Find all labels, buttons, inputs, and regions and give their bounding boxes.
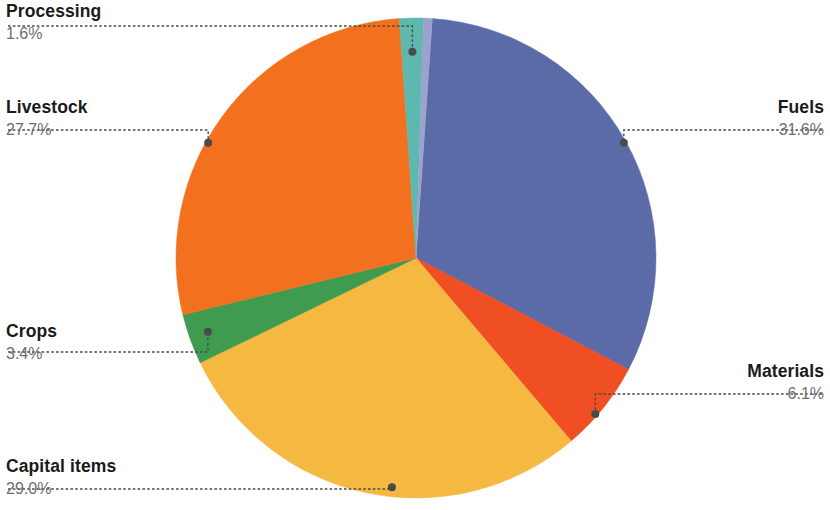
pie-chart-canvas: [0, 0, 830, 510]
pie-slice-group: [176, 18, 656, 498]
callout-processing-label: Processing: [6, 2, 101, 22]
callout-livestock[interactable]: Livestock 27.7%: [6, 98, 88, 139]
callout-capital-items-label: Capital items: [6, 457, 116, 477]
leader-dot-materials: [591, 410, 599, 418]
callout-fuels[interactable]: Fuels 31.6%: [778, 98, 824, 139]
leader-dot-processing: [408, 48, 416, 56]
callout-capital-items[interactable]: Capital items 29.0%: [6, 457, 116, 498]
callout-livestock-value: 27.7%: [6, 118, 88, 139]
leader-dot-fuels: [620, 139, 628, 147]
callout-materials-value: 6.1%: [747, 382, 824, 403]
callout-crops-value: 3.4%: [6, 342, 57, 363]
leader-dot-livestock: [204, 139, 212, 147]
callout-fuels-value: 31.6%: [778, 118, 824, 139]
callout-processing[interactable]: Processing 1.6%: [6, 2, 101, 43]
callout-materials[interactable]: Materials 6.1%: [747, 362, 824, 403]
leader-dot-crops: [204, 328, 212, 336]
leader-dot-capital-items: [388, 483, 396, 491]
callout-processing-value: 1.6%: [6, 22, 101, 43]
callout-livestock-label: Livestock: [6, 98, 88, 118]
callout-fuels-label: Fuels: [778, 98, 824, 118]
callout-materials-label: Materials: [747, 362, 824, 382]
callout-crops-label: Crops: [6, 322, 57, 342]
callout-capital-items-value: 29.0%: [6, 477, 116, 498]
callout-crops[interactable]: Crops 3.4%: [6, 322, 57, 363]
pie-chart: Processing 1.6% Livestock 27.7% Crops 3.…: [0, 0, 830, 510]
